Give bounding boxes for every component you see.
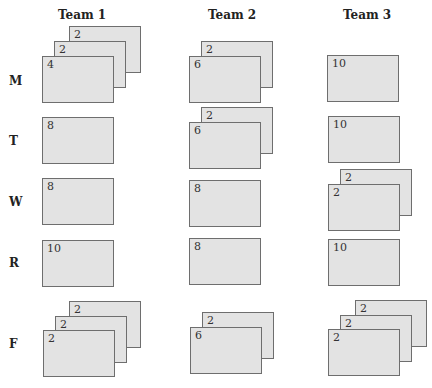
card-value: 8 xyxy=(194,182,201,195)
card-value: 6 xyxy=(194,58,201,71)
card-w-team2-front: 8 xyxy=(189,180,261,227)
card-f-team3-front: 2 xyxy=(328,329,400,376)
row-label-wednesday: W xyxy=(9,195,22,209)
row-label-friday: F xyxy=(9,337,18,351)
card-value: 2 xyxy=(360,302,367,315)
card-value: 10 xyxy=(333,241,347,254)
team-2-header: Team 2 xyxy=(208,8,256,22)
row-label-thursday: R xyxy=(9,256,19,270)
card-r-team2-front: 8 xyxy=(189,238,261,285)
card-m-team3-front: 10 xyxy=(327,55,399,102)
card-w-team1-front: 8 xyxy=(42,178,114,225)
row-label-tuesday: T xyxy=(9,134,18,148)
card-value: 6 xyxy=(195,329,202,342)
card-value: 2 xyxy=(206,43,213,56)
card-r-team1-front: 10 xyxy=(42,240,114,287)
card-value: 2 xyxy=(74,303,81,316)
card-value: 10 xyxy=(332,57,346,70)
card-value: 2 xyxy=(74,28,81,41)
card-value: 2 xyxy=(333,186,340,199)
card-t-team1-front: 8 xyxy=(42,117,114,164)
card-value: 2 xyxy=(206,109,213,122)
card-value: 10 xyxy=(47,242,61,255)
card-value: 8 xyxy=(47,119,54,132)
card-value: 4 xyxy=(47,58,54,71)
card-t-team3-front: 10 xyxy=(328,116,400,163)
card-value: 2 xyxy=(48,332,55,345)
card-value: 2 xyxy=(345,171,352,184)
card-value: 10 xyxy=(333,118,347,131)
card-w-team3-front: 2 xyxy=(328,184,400,231)
card-t-team2-front: 6 xyxy=(189,122,261,169)
card-f-team1-front: 2 xyxy=(43,330,115,377)
card-f-team2-front: 6 xyxy=(190,327,262,374)
card-value: 2 xyxy=(207,314,214,327)
card-value: 2 xyxy=(59,43,66,56)
card-m-team1-front: 4 xyxy=(42,56,114,103)
card-m-team2-front: 6 xyxy=(189,56,261,103)
card-r-team3-front: 10 xyxy=(328,239,400,286)
card-value: 2 xyxy=(333,331,340,344)
card-value: 6 xyxy=(194,124,201,137)
row-label-monday: M xyxy=(9,74,22,88)
team-3-header: Team 3 xyxy=(343,8,391,22)
team-1-header: Team 1 xyxy=(58,8,106,22)
card-value: 8 xyxy=(47,180,54,193)
card-value: 8 xyxy=(194,240,201,253)
